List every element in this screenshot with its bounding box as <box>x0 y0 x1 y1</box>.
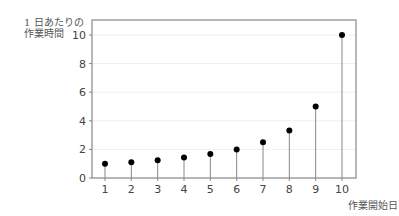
y-tick-label: 0 <box>79 172 86 185</box>
data-point <box>207 151 213 157</box>
x-tick-label: 5 <box>207 183 214 196</box>
x-tick-label: 9 <box>312 183 319 196</box>
data-point <box>234 146 240 152</box>
x-tick-label: 6 <box>233 183 240 196</box>
x-tick-label: 10 <box>335 183 349 196</box>
x-tick-label: 8 <box>286 183 293 196</box>
stem-chart: 024681012345678910 <box>0 0 399 216</box>
y-tick-label: 6 <box>79 86 86 99</box>
x-tick-label: 1 <box>102 183 109 196</box>
y-tick-label: 8 <box>79 58 86 71</box>
data-point <box>128 159 134 165</box>
x-tick-label: 4 <box>181 183 188 196</box>
data-point <box>102 161 108 167</box>
y-tick-label: 4 <box>79 115 86 128</box>
data-point <box>181 155 187 161</box>
x-tick-label: 3 <box>154 183 161 196</box>
data-point <box>155 157 161 163</box>
y-tick-label: 10 <box>72 29 86 42</box>
data-point <box>339 32 345 38</box>
data-point <box>286 127 292 133</box>
x-tick-label: 2 <box>128 183 135 196</box>
data-point <box>313 104 319 110</box>
x-tick-label: 7 <box>260 183 267 196</box>
plot-frame <box>92 20 356 178</box>
data-point <box>260 139 266 145</box>
y-tick-label: 2 <box>79 143 86 156</box>
